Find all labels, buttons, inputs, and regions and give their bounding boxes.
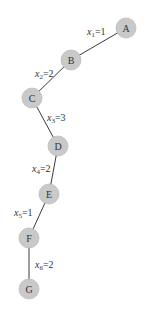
edge-label-x3: x3=3 (46, 112, 66, 125)
node-d: D (48, 136, 68, 156)
node-label: E (46, 189, 52, 200)
node-label: B (68, 55, 75, 66)
edge-label-x5: x5=1 (13, 207, 33, 220)
nodes-layer: ABCDEFG (19, 18, 136, 299)
node-label: D (54, 141, 61, 152)
path-diagram: x1=1x2=2x3=3x4=2x5=1x6=2 ABCDEFG (0, 0, 151, 314)
node-c: C (22, 88, 42, 108)
node-label: G (25, 284, 32, 295)
node-f: F (19, 228, 39, 248)
node-label: C (29, 93, 36, 104)
node-b: B (61, 50, 81, 70)
node-a: A (116, 18, 136, 38)
node-label: F (26, 233, 32, 244)
edge-label-x4: x4=2 (31, 163, 51, 176)
node-label: A (122, 23, 130, 34)
edge-label-x1: x1=1 (86, 26, 106, 39)
edge-label-x6: x6=2 (34, 259, 54, 272)
node-e: E (39, 184, 59, 204)
node-g: G (19, 279, 39, 299)
edge-label-x2: x2=2 (34, 68, 54, 81)
